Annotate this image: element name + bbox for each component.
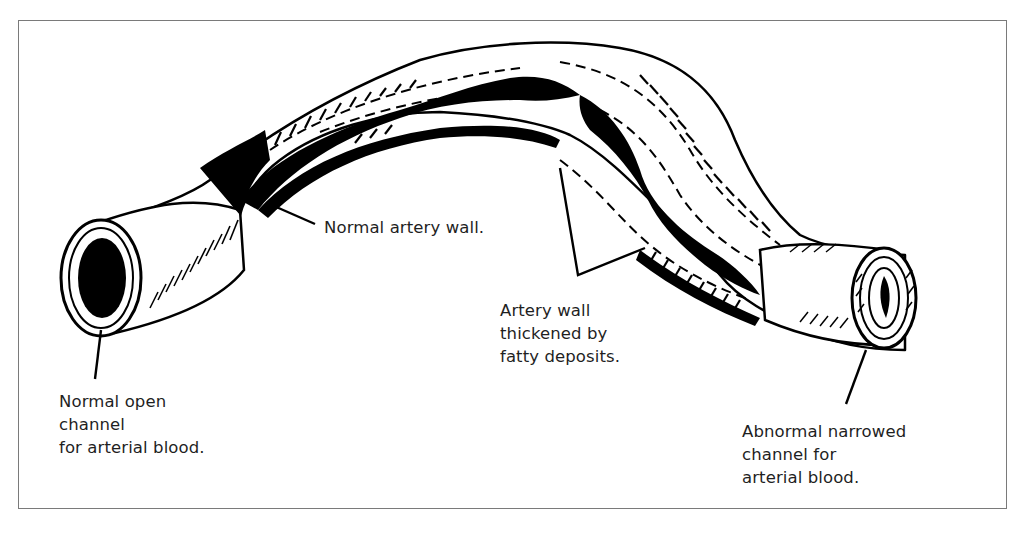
label-line: Normal open: [59, 390, 205, 413]
label-line: Normal artery wall.: [324, 216, 484, 239]
label-line: arterial blood.: [742, 466, 906, 489]
label-line: Abnormal narrowed: [742, 420, 906, 443]
label-thickened-artery-wall: Artery wall thickened by fatty deposits.: [500, 299, 620, 368]
label-line: fatty deposits.: [500, 345, 620, 368]
leader-narrowed-channel: [846, 350, 866, 404]
label-line: channel: [59, 413, 205, 436]
left-vessel-end: [61, 203, 244, 336]
label-normal-artery-wall: Normal artery wall.: [324, 216, 484, 239]
label-line: for arterial blood.: [59, 436, 205, 459]
label-line: thickened by: [500, 322, 620, 345]
label-normal-open-channel: Normal open channel for arterial blood.: [59, 390, 205, 459]
label-line: Artery wall: [500, 299, 620, 322]
label-abnormal-narrowed-channel: Abnormal narrowed channel for arterial b…: [742, 420, 906, 489]
label-line: channel for: [742, 443, 906, 466]
leader-normal-wall: [274, 206, 315, 224]
right-vessel-end: [760, 244, 916, 348]
